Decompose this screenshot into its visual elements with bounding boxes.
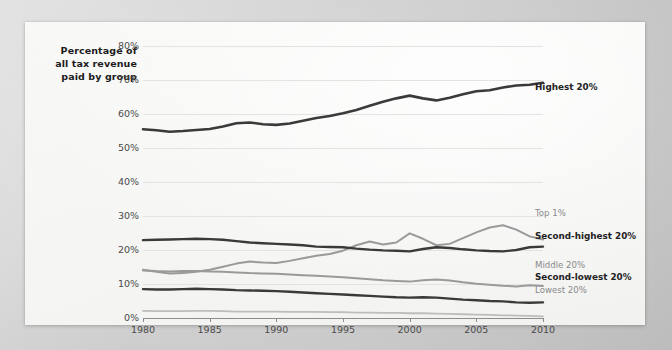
series-lines: [143, 46, 543, 318]
series-line: [143, 289, 543, 303]
chart-plot-area: 0%10%20%30%40%50%60%70%80% 1980198519901…: [143, 46, 543, 318]
y-axis-tick-label: 70%: [99, 74, 139, 85]
y-axis-tick-label: 50%: [99, 142, 139, 153]
series-label: Highest 20%: [535, 82, 597, 92]
series-label: Lowest 20%: [535, 285, 587, 295]
x-axis-tick-mark: [143, 318, 144, 322]
x-axis-tick-mark: [410, 318, 411, 322]
series-label: Top 1%: [535, 208, 566, 218]
x-axis-tick-mark: [210, 318, 211, 322]
y-axis-tick-label: 40%: [99, 176, 139, 187]
y-axis-tick-label: 20%: [99, 244, 139, 255]
x-axis-tick-label: 2005: [464, 324, 488, 335]
y-axis-tick-label: 80%: [99, 40, 139, 51]
series-line: [143, 270, 543, 286]
x-axis-tick-mark: [276, 318, 277, 322]
x-axis-tick-label: 1985: [198, 324, 222, 335]
series-label: Middle 20%: [535, 260, 585, 270]
x-axis-tick-mark: [476, 318, 477, 322]
y-axis-tick-label: 0%: [99, 312, 139, 323]
x-axis-ticks: 1980198519901995200020052010: [143, 318, 543, 340]
series-line: [143, 225, 543, 273]
series-line: [143, 311, 543, 316]
x-axis-tick-label: 2000: [398, 324, 422, 335]
y-axis-tick-label: 10%: [99, 278, 139, 289]
x-axis-tick-label: 1980: [131, 324, 155, 335]
x-axis-tick-label: 1995: [331, 324, 355, 335]
x-axis-tick-label: 1990: [264, 324, 288, 335]
screenshot-root: Percentage of all tax revenue paid by gr…: [0, 0, 672, 350]
series-label: Second-highest 20%: [535, 231, 636, 241]
series-line: [143, 239, 543, 252]
series-line: [143, 83, 543, 132]
y-axis-tick-label: 60%: [99, 108, 139, 119]
x-axis-tick-mark: [343, 318, 344, 322]
y-axis-tick-label: 30%: [99, 210, 139, 221]
printed-page: Percentage of all tax revenue paid by gr…: [25, 22, 645, 325]
x-axis-tick-label: 2010: [531, 324, 555, 335]
x-axis-tick-mark: [543, 318, 544, 322]
series-label: Second-lowest 20%: [535, 272, 631, 282]
